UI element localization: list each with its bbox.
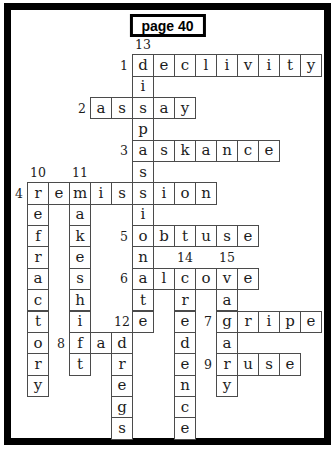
grid-cell: e bbox=[132, 311, 154, 333]
grid-cell: r bbox=[27, 182, 49, 204]
grid-cell: e bbox=[237, 225, 259, 247]
grid-cell: s bbox=[111, 182, 133, 204]
grid-cell: s bbox=[216, 225, 238, 247]
grid-cell: a bbox=[195, 140, 217, 162]
grid-cell: e bbox=[153, 54, 175, 76]
grid-cell: y bbox=[174, 97, 196, 119]
grid-cell: a bbox=[216, 332, 238, 354]
grid-cell: b bbox=[153, 225, 175, 247]
grid-cell: t bbox=[69, 353, 91, 375]
grid-cell: l bbox=[195, 54, 217, 76]
grid-cell: g bbox=[111, 396, 133, 418]
grid-cell: r bbox=[27, 353, 49, 375]
grid-cell: s bbox=[132, 182, 154, 204]
puzzle-page: page 40 declivity1assay2askance3remissio… bbox=[0, 0, 335, 451]
clue-number-4: 4 bbox=[6, 182, 28, 204]
grid-cell: c bbox=[27, 289, 49, 311]
grid-cell: v bbox=[216, 268, 238, 290]
grid-cell: m bbox=[69, 182, 91, 204]
grid-cell: d bbox=[111, 332, 133, 354]
grid-cell: s bbox=[69, 268, 91, 290]
clue-number-1: 1 bbox=[111, 54, 133, 76]
grid-cell: e bbox=[27, 204, 49, 226]
grid-cell: y bbox=[27, 375, 49, 397]
clue-number-7: 7 bbox=[195, 311, 217, 333]
grid-cell: s bbox=[153, 140, 175, 162]
grid-cell: y bbox=[300, 54, 322, 76]
grid-cell: s bbox=[111, 417, 133, 439]
grid-cell: i bbox=[69, 311, 91, 333]
grid-cell: n bbox=[195, 182, 217, 204]
grid-cell: r bbox=[111, 353, 133, 375]
grid-cell: o bbox=[132, 225, 154, 247]
clue-number-12: 12 bbox=[111, 311, 133, 333]
grid-cell: t bbox=[174, 225, 196, 247]
grid-cell: i bbox=[258, 311, 280, 333]
clue-number-14: 14 bbox=[174, 246, 196, 268]
grid-cell: i bbox=[132, 76, 154, 98]
grid-cell: s bbox=[132, 97, 154, 119]
grid-cell: a bbox=[153, 97, 175, 119]
grid-cell: t bbox=[27, 311, 49, 333]
grid-cell: f bbox=[69, 332, 91, 354]
grid-cell: s bbox=[111, 97, 133, 119]
grid-cell: i bbox=[153, 182, 175, 204]
grid-cell: i bbox=[90, 182, 112, 204]
grid-cell: u bbox=[195, 225, 217, 247]
grid-cell: l bbox=[153, 268, 175, 290]
grid-cell: y bbox=[216, 375, 238, 397]
grid-cell: r bbox=[216, 353, 238, 375]
page-title-label: page 40 bbox=[141, 18, 193, 34]
grid-cell: h bbox=[69, 289, 91, 311]
grid-cell: c bbox=[174, 54, 196, 76]
grid-cell: k bbox=[174, 140, 196, 162]
grid-cell: e bbox=[111, 375, 133, 397]
grid-cell: a bbox=[216, 289, 238, 311]
clue-number-8: 8 bbox=[48, 332, 70, 354]
clue-number-3: 3 bbox=[111, 140, 133, 162]
grid-cell: c bbox=[174, 268, 196, 290]
crossword-grid: declivity1assay2askance3remission4obtuse… bbox=[0, 0, 335, 451]
grid-cell: e bbox=[48, 182, 70, 204]
grid-cell: s bbox=[132, 161, 154, 183]
grid-cell: r bbox=[27, 246, 49, 268]
grid-cell: a bbox=[132, 268, 154, 290]
grid-cell: n bbox=[132, 246, 154, 268]
grid-cell: d bbox=[132, 54, 154, 76]
grid-cell: r bbox=[174, 289, 196, 311]
grid-cell: a bbox=[132, 140, 154, 162]
grid-cell: n bbox=[216, 140, 238, 162]
grid-cell: p bbox=[132, 118, 154, 140]
grid-cell: i bbox=[132, 204, 154, 226]
grid-cell: e bbox=[174, 417, 196, 439]
grid-cell: s bbox=[258, 353, 280, 375]
grid-cell: e bbox=[237, 268, 259, 290]
grid-cell: e bbox=[258, 140, 280, 162]
clue-number-11: 11 bbox=[69, 161, 91, 183]
clue-number-9: 9 bbox=[195, 353, 217, 375]
grid-cell: t bbox=[132, 289, 154, 311]
clue-number-2: 2 bbox=[69, 97, 91, 119]
grid-cell: g bbox=[216, 311, 238, 333]
grid-cell: o bbox=[27, 332, 49, 354]
grid-cell: v bbox=[237, 54, 259, 76]
grid-cell: e bbox=[279, 353, 301, 375]
grid-cell: a bbox=[69, 204, 91, 226]
grid-cell: u bbox=[237, 353, 259, 375]
grid-cell: f bbox=[27, 225, 49, 247]
grid-cell: c bbox=[237, 140, 259, 162]
grid-cell: n bbox=[174, 375, 196, 397]
grid-cell: a bbox=[90, 332, 112, 354]
grid-cell: o bbox=[174, 182, 196, 204]
clue-number-6: 6 bbox=[111, 268, 133, 290]
grid-cell: o bbox=[195, 268, 217, 290]
grid-cell: e bbox=[174, 353, 196, 375]
clue-number-5: 5 bbox=[111, 225, 133, 247]
grid-cell: i bbox=[216, 54, 238, 76]
grid-cell: a bbox=[90, 97, 112, 119]
clue-number-15: 15 bbox=[216, 246, 238, 268]
grid-cell: c bbox=[174, 396, 196, 418]
grid-cell: d bbox=[174, 332, 196, 354]
clue-number-10: 10 bbox=[27, 161, 49, 183]
grid-cell: e bbox=[300, 311, 322, 333]
